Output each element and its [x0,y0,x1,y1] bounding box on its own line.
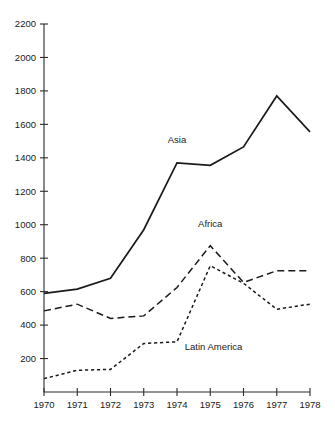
y-tick-label: 1600 [15,119,36,130]
y-tick-label: 1800 [15,85,36,96]
y-tick-label: 1000 [15,219,36,230]
x-axis: 197019711972197319741975197619771978 [33,388,320,410]
chart-canvas: 2004006008001000120014001600180020002200… [0,0,335,434]
series-line [44,266,310,379]
y-tick-label: 200 [20,353,36,364]
x-tick-label: 1970 [33,399,54,410]
x-tick-label: 1975 [200,399,221,410]
y-tick-label: 1400 [15,152,36,163]
x-tick-label: 1974 [166,399,187,410]
series-latin-america: Latin America [44,266,310,379]
y-tick-label: 1200 [15,186,36,197]
series-label-africa: Africa [198,218,223,229]
axes [44,24,310,392]
series-label-latin-america: Latin America [185,341,243,352]
axis-lines [44,24,310,392]
series-label-asia: Asia [168,134,187,145]
series-line [44,96,310,293]
x-tick-label: 1976 [233,399,254,410]
x-tick-label: 1977 [266,399,287,410]
y-tick-label: 2200 [15,18,36,29]
series-line [44,246,310,319]
x-tick-label: 1978 [299,399,320,410]
x-tick-label: 1971 [67,399,88,410]
series-asia: Asia [44,96,310,293]
y-tick-label: 800 [20,253,36,264]
y-axis: 2004006008001000120014001600180020002200 [15,18,48,364]
line-chart: 2004006008001000120014001600180020002200… [0,0,335,434]
y-tick-label: 600 [20,286,36,297]
y-tick-label: 2000 [15,52,36,63]
y-tick-label: 400 [20,319,36,330]
x-tick-label: 1973 [133,399,154,410]
x-tick-label: 1972 [100,399,121,410]
